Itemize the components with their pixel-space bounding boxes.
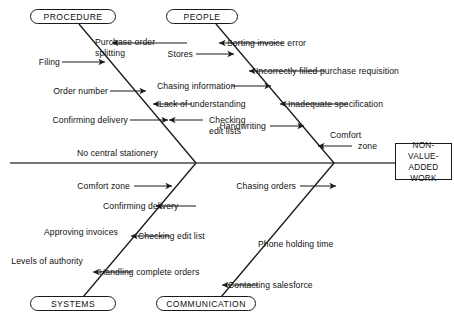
cause-order-number[interactable]: Order number <box>38 86 108 97</box>
fishbone-diagram-canvas: PROCEDURE PEOPLE SYSTEMS COMMUNICATION N… <box>0 0 454 329</box>
cause-stores-text: Stores <box>168 49 193 59</box>
cause-sorting-invoice-error-text: Sorting invoice error <box>227 38 306 48</box>
cause-lack-of-understanding[interactable]: Lack of understanding <box>159 99 246 110</box>
cause-lack-of-understanding-text: Lack of understanding <box>159 99 246 109</box>
cause-comfort-zone-systems[interactable]: Comfort zone <box>62 181 130 192</box>
cause-checking-edit-list-text: Checking edit list <box>138 231 205 241</box>
effect-text-line1: NON-VALUE- <box>398 140 449 162</box>
cause-inadequate-specification[interactable]: Inadequate specification <box>288 99 383 110</box>
cause-handling-complete-orders-text: Handling complete orders <box>99 267 199 277</box>
cause-comfort-zone-people-line1: Comfort <box>330 130 374 141</box>
cause-approving-invoices[interactable]: Approving invoices <box>44 227 117 238</box>
cause-checking-edit-list[interactable]: Checking edit list <box>138 231 205 242</box>
cause-filing[interactable]: Filing <box>22 57 60 68</box>
cause-chasing-information-text: Chasing information <box>157 81 235 91</box>
cause-sorting-invoice-error[interactable]: Sorting invoice error <box>227 38 306 49</box>
cause-confirming-delivery-procedure-text: Confirming delivery <box>53 115 128 125</box>
cause-confirming-delivery-systems[interactable]: Confirming delivery <box>103 201 178 212</box>
category-text-systems: SYSTEMS <box>51 299 95 309</box>
cause-handwriting[interactable]: Handwriting <box>218 121 266 132</box>
cause-phone-holding-time-text: Phone holding time <box>258 239 333 249</box>
category-label-people[interactable]: PEOPLE <box>166 9 238 24</box>
fishbone-skeleton <box>0 0 454 329</box>
cause-no-central-stationery[interactable]: No central stationery <box>77 148 158 159</box>
cause-comfort-zone-people-line2: zone <box>358 141 374 152</box>
category-text-people: PEOPLE <box>183 12 220 22</box>
cause-handling-complete-orders[interactable]: Handling complete orders <box>99 267 199 278</box>
category-label-systems[interactable]: SYSTEMS <box>30 296 116 311</box>
category-label-procedure[interactable]: PROCEDURE <box>30 9 116 24</box>
category-label-communication[interactable]: COMMUNICATION <box>156 296 256 311</box>
cause-purchase-order-splitting-line1: Purchase order <box>95 37 167 48</box>
cause-handwriting-text: Handwriting <box>220 121 266 131</box>
cause-incorrectly-filled-purchase-requisition[interactable]: Incorrectly filled purchase requisition <box>256 66 399 77</box>
category-text-procedure: PROCEDURE <box>44 12 103 22</box>
cause-comfort-zone-systems-text: Comfort zone <box>77 181 130 191</box>
cause-confirming-delivery-procedure[interactable]: Confirming delivery <box>50 115 128 126</box>
cause-contacting-salesforce[interactable]: Contacting salesforce <box>228 280 313 291</box>
cause-filing-text: Filing <box>39 57 60 67</box>
cause-no-central-stationery-text: No central stationery <box>77 148 158 158</box>
cause-chasing-orders-text: Chasing orders <box>236 181 296 191</box>
cause-order-number-text: Order number <box>53 86 108 96</box>
effect-text-line2: ADDED WORK <box>398 162 449 184</box>
cause-levels-of-authority-text: Levels of authority <box>11 256 83 266</box>
cause-approving-invoices-text: Approving invoices <box>44 227 118 237</box>
cause-contacting-salesforce-text: Contacting salesforce <box>228 280 313 290</box>
cause-chasing-information[interactable]: Chasing information <box>157 81 229 92</box>
cause-comfort-zone-people[interactable]: Comfort zone <box>330 130 374 151</box>
effect-box[interactable]: NON-VALUE- ADDED WORK <box>395 143 452 180</box>
category-text-communication: COMMUNICATION <box>166 299 246 309</box>
cause-confirming-delivery-systems-text: Confirming delivery <box>103 201 178 211</box>
cause-incorrectly-filled-purchase-requisition-text: Incorrectly filled purchase requisition <box>256 66 399 76</box>
cause-inadequate-specification-text: Inadequate specification <box>288 99 383 109</box>
cause-phone-holding-time[interactable]: Phone holding time <box>258 239 333 250</box>
cause-levels-of-authority[interactable]: Levels of authority <box>10 256 83 267</box>
cause-stores[interactable]: Stores <box>157 49 193 60</box>
cause-chasing-orders[interactable]: Chasing orders <box>232 181 296 192</box>
